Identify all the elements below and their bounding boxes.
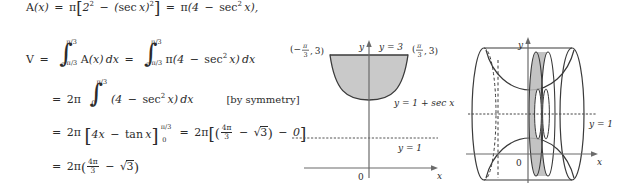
y-axis-label: y [358, 42, 365, 52]
integral-symbol-1: ∫ π/3 −π/3 [56, 44, 76, 66]
solution-line-final-answer: = 2π(4π3 − √3) [50, 158, 139, 175]
svg-text:π: π [416, 42, 422, 50]
graph-figure: y x 0 y = 3 y = 1 + sec x y = 1 (− π [290, 28, 470, 191]
solid-of-revolution-svg: y x 0 y = 1 [462, 28, 622, 191]
svg-text:, 3): , 3) [310, 46, 324, 56]
solution-steps: A(x) = π[22 − (sec x)2] = π(4 − sec2 x),… [0, 0, 290, 191]
svg-text:, 3): , 3) [424, 46, 438, 56]
integral-symbol-2: ∫ π/3 −π/3 [141, 44, 161, 66]
figure-page: A(x) = π[22 − (sec x)2] = π(4 − sec2 x),… [0, 0, 622, 191]
integral-symbol-3: ∫ π/3 0 [86, 84, 106, 106]
math-A: A [26, 1, 34, 14]
solution-line-symmetry: = 2π ∫ π/3 0 (4 − sec2 x) dx [by symmetr… [50, 84, 300, 106]
solid-figure: y x 0 y = 1 [462, 28, 622, 191]
x-axis-label: x [437, 171, 442, 181]
svg-text:3: 3 [304, 51, 308, 59]
svg-text:π: π [302, 42, 308, 50]
origin-label: 0 [358, 172, 364, 182]
y-axis-label: y [517, 40, 524, 50]
label-y-equals-3: y = 3 [378, 42, 403, 52]
x-axis-label: x [597, 157, 602, 167]
label-curve-equation: y = 1 + sec x [393, 98, 454, 108]
label-y-equals-1: y = 1 [588, 119, 613, 129]
label-point-left: (− π 3 , 3) [290, 42, 324, 59]
solution-line-antiderivative: = 2π [4x − tan x] π/3 0 = 2π[(4π3 − √3) … [50, 124, 306, 141]
label-y-equals-1: y = 1 [397, 143, 422, 153]
y-axis-arrow-icon [525, 37, 530, 44]
svg-text:(−: (− [290, 44, 301, 54]
x-axis-arrow-icon [431, 165, 438, 170]
label-point-right: ( π 3 , 3) [412, 42, 438, 59]
solution-line-area-function: A(x) = π[22 − (sec x)2] = π(4 − sec2 x), [26, 2, 258, 13]
x-axis-arrow-icon [591, 151, 598, 156]
origin-label: 0 [516, 158, 522, 168]
svg-text:3: 3 [418, 51, 422, 59]
evaluation-bracket: [4x − tan x] π/3 0 [84, 129, 158, 140]
symmetry-note: [by symmetry] [226, 94, 299, 105]
solution-line-volume-integral: V = ∫ π/3 −π/3 A(x) dx = ∫ π/3 −π/3 π(4 … [26, 44, 255, 66]
math-V: V [26, 53, 34, 66]
y-axis-arrow-icon [366, 40, 371, 47]
region-graph-svg: y x 0 y = 3 y = 1 + sec x y = 1 (− π [290, 28, 470, 191]
math-var-x: x [38, 1, 44, 14]
svg-text:(: ( [412, 44, 416, 54]
